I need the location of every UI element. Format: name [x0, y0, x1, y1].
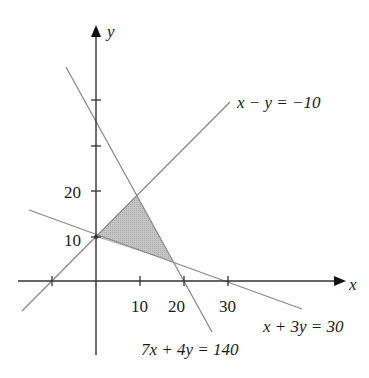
linear-programming-diagram: x y 10 20 30 10 20 x − y = −10 x + 3y = …: [0, 0, 369, 378]
line-label-x-plus-3y: x + 3y = 30: [262, 317, 344, 336]
line-x-plus-3y: [29, 210, 302, 309]
x-axis-arrow-icon: [334, 276, 346, 286]
tick-label-x-30: 30: [219, 297, 236, 316]
y-axis-label: y: [105, 22, 115, 41]
tick-label-y-20: 20: [64, 183, 81, 202]
y-axis-arrow-icon: [91, 25, 101, 37]
feasible-region: [96, 196, 173, 262]
tick-label-y-10: 10: [64, 231, 81, 250]
tick-label-x-10: 10: [131, 297, 148, 316]
intercept-point: [94, 235, 98, 239]
line-label-x-minus-y: x − y = −10: [236, 93, 321, 112]
line-label-7x-plus-4y: 7x + 4y = 140: [141, 340, 239, 359]
x-axis-label: x: [348, 275, 357, 294]
tick-label-x-20: 20: [168, 297, 185, 316]
line-7x-plus-4y: [66, 67, 212, 332]
line-x-minus-y: [22, 102, 230, 311]
